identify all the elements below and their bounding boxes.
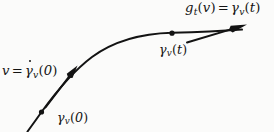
label-gamma-with-dot-1: γ xyxy=(231,1,239,14)
label-close-paren-2: ) xyxy=(255,0,260,15)
label-close-paren-3: ) xyxy=(52,63,57,78)
label-flow-equals-gamma-dot-t: gt(v)=γv(t) xyxy=(185,1,261,16)
tangent-arrow-at-t xyxy=(187,25,247,43)
label-equals-sign-2: = xyxy=(12,63,23,78)
geodesic-flow-figure: gt(v)=γv(t) v=γv(0) γv(t) γv(0) xyxy=(0,0,274,132)
label-zero-argument-2: 0 xyxy=(75,110,83,125)
label-close-paren-5: ) xyxy=(83,110,88,125)
curve-point-marker-zero xyxy=(39,109,44,114)
label-gamma-symbol-4: γ xyxy=(57,110,65,125)
label-close-paren-1: ) xyxy=(210,0,215,15)
label-close-paren-4: ) xyxy=(182,42,187,57)
label-equals-sign-1: = xyxy=(218,0,229,15)
overdot-icon xyxy=(29,60,31,62)
label-g-symbol: g xyxy=(185,0,194,15)
label-gamma-with-dot-2: γ xyxy=(25,64,33,77)
label-v-symbol: v xyxy=(2,63,10,78)
label-gamma-symbol-2: γ xyxy=(25,63,33,78)
label-point-gamma-zero: γv(0) xyxy=(57,112,88,126)
label-gamma-symbol-1: γ xyxy=(231,0,239,15)
label-gamma-symbol-3: γ xyxy=(159,42,167,57)
curve-point-marker-t xyxy=(169,31,174,36)
tangent-arrow-at-t-head xyxy=(229,25,247,33)
label-v-equals-gamma-dot-zero: v=γv(0) xyxy=(2,64,58,79)
label-point-gamma-t: γv(t) xyxy=(159,44,187,58)
label-zero-argument-1: 0 xyxy=(44,63,53,78)
